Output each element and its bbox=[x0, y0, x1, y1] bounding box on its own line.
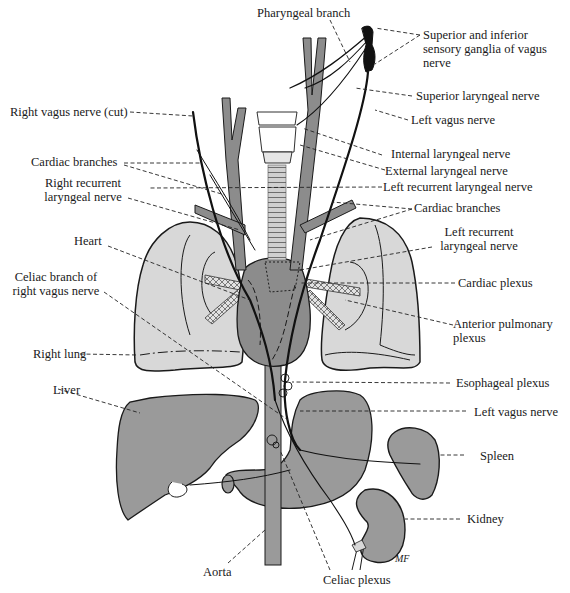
label-anterior-pulmonary-line2: plexus bbox=[453, 331, 486, 345]
label-celiac-branch-line1: Celiac branch of bbox=[8, 270, 104, 284]
label-left-vagus-nerve-top: Left vagus nerve bbox=[411, 113, 495, 127]
label-left-recurrent-line2: laryngeal nerve bbox=[434, 239, 524, 253]
vagus-ganglia bbox=[362, 26, 375, 72]
right-lung bbox=[134, 222, 244, 371]
label-aorta: Aorta bbox=[203, 565, 231, 579]
label-cardiac-branches-right: Cardiac branches bbox=[414, 201, 500, 215]
label-left-vagus-nerve-bottom: Left vagus nerve bbox=[474, 405, 558, 419]
label-ganglia-line1: Superior and inferior bbox=[423, 28, 528, 42]
artist-signature: MF bbox=[395, 553, 409, 564]
label-left-recurrent-laryngeal-top: Left recurrent laryngeal nerve bbox=[383, 180, 533, 194]
label-right-recurrent-line2: laryngeal nerve bbox=[40, 190, 126, 204]
liver bbox=[116, 394, 258, 520]
label-superior-laryngeal-nerve: Superior laryngeal nerve bbox=[416, 89, 540, 103]
left-lung bbox=[321, 218, 420, 370]
label-pharyngeal-branch: Pharyngeal branch bbox=[257, 6, 350, 20]
label-cardiac-branches-left: Cardiac branches bbox=[31, 155, 117, 169]
label-internal-laryngeal-nerve: Internal laryngeal nerve bbox=[391, 147, 510, 161]
label-ganglia-line2: sensory ganglia of vagus bbox=[423, 42, 547, 56]
larynx bbox=[257, 112, 297, 163]
label-celiac-branch-line2: right vagus nerve bbox=[8, 284, 104, 298]
vagus-nerve-diagram: Pharyngeal branch Superior and inferior … bbox=[0, 0, 570, 593]
label-right-recurrent-line1: Right recurrent bbox=[40, 176, 126, 190]
label-celiac-plexus: Celiac plexus bbox=[323, 573, 391, 587]
label-left-recurrent-line1: Left recurrent bbox=[434, 225, 524, 239]
heart bbox=[237, 258, 310, 366]
label-right-vagus-nerve-cut: Right vagus nerve (cut) bbox=[10, 105, 128, 119]
kidney bbox=[356, 489, 405, 562]
label-right-lung: Right lung bbox=[33, 347, 86, 361]
label-esophageal-plexus: Esophageal plexus bbox=[456, 376, 549, 390]
trachea bbox=[268, 165, 286, 260]
label-ganglia-line3: nerve bbox=[423, 56, 451, 70]
label-liver: Liver bbox=[53, 383, 80, 397]
label-external-laryngeal-nerve: External laryngeal nerve bbox=[385, 164, 508, 178]
duodenum bbox=[222, 475, 234, 493]
aorta bbox=[265, 340, 281, 565]
label-kidney: Kidney bbox=[467, 512, 504, 526]
label-spleen: Spleen bbox=[480, 449, 514, 463]
label-anterior-pulmonary-line1: Anterior pulmonary bbox=[453, 317, 553, 331]
label-heart: Heart bbox=[74, 234, 102, 248]
label-cardiac-plexus: Cardiac plexus bbox=[458, 276, 533, 290]
